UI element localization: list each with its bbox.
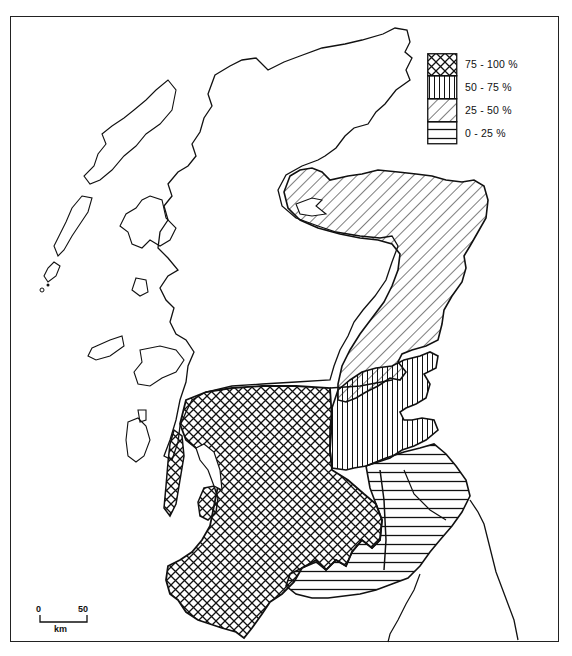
outer-hebrides-uist	[54, 196, 92, 256]
isle-of-mull	[134, 346, 184, 386]
legend-swatches	[427, 53, 459, 146]
legend: 75 - 100 % 50 - 75 % 25 - 50 % 0 - 25 %	[427, 53, 557, 145]
isle-rum	[132, 278, 148, 296]
legend-label-0-25: 0 - 25 %	[465, 127, 506, 139]
isle-coll-tiree	[88, 336, 124, 360]
island	[40, 288, 44, 292]
england-border	[470, 500, 518, 640]
kintyre-peninsula	[164, 430, 184, 516]
legend-swatch-50-75	[428, 76, 457, 99]
legend-swatch-25-50	[428, 99, 457, 122]
outer-hebrides-lewis-harris	[84, 80, 176, 184]
isle-of-skye	[120, 196, 176, 248]
legend-label-50-75: 50 - 75 %	[465, 81, 512, 93]
scale-start-label: 0	[36, 604, 41, 614]
scale-bar: 0 50 km	[40, 604, 110, 634]
isle-islay-jura	[126, 418, 150, 462]
legend-label-75-100: 75 - 100 %	[465, 58, 518, 70]
scale-unit-label: km	[54, 624, 67, 634]
outer-hebrides-barra	[44, 262, 60, 282]
legend-swatch-0-25	[428, 122, 457, 144]
island	[47, 284, 50, 287]
legend-swatch-75-100	[428, 54, 457, 76]
isle-small	[138, 410, 146, 422]
scale-bar-line	[38, 614, 98, 626]
scale-end-label: 50	[78, 604, 88, 614]
legend-label-25-50: 25 - 50 %	[465, 104, 512, 116]
